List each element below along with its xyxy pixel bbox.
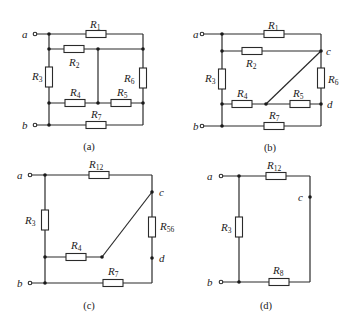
terminal-a — [219, 174, 223, 178]
terminal-b — [219, 280, 223, 284]
label-r2: R2 — [245, 57, 257, 71]
node-label-c: c — [159, 186, 164, 198]
terminal-label-a: a — [193, 28, 199, 40]
node-label-d: d — [327, 98, 333, 110]
label-r7: R7 — [90, 108, 102, 122]
label-r5: R5 — [292, 87, 304, 101]
resistor-r3 — [236, 217, 243, 237]
caption-b: (b) — [264, 142, 277, 154]
resistor-r5 — [111, 100, 131, 107]
label-r3: R3 — [204, 72, 216, 86]
node-label-c: c — [298, 191, 303, 203]
resistor-r56 — [149, 217, 156, 237]
resistor-r7 — [86, 122, 106, 129]
resistor-r6 — [140, 68, 147, 88]
terminal-a — [200, 32, 204, 36]
terminal-label-b: b — [207, 276, 213, 288]
label-r8: R8 — [272, 264, 284, 278]
resistor-r4 — [65, 100, 85, 107]
label-r4: R4 — [236, 87, 248, 101]
terminal-b — [200, 124, 204, 128]
caption-a: (a) — [83, 141, 95, 153]
terminal-a — [28, 173, 32, 177]
resistor-r12 — [266, 173, 286, 180]
label-r12: R12 — [266, 159, 281, 173]
resistor-r8 — [269, 279, 289, 286]
label-r1: R1 — [89, 18, 101, 32]
label-r4: R4 — [70, 239, 82, 253]
resistor-r7 — [264, 123, 284, 130]
node-label-d: d — [159, 252, 165, 264]
panel-d: a b c R12 R3 R8 (d) — [207, 159, 312, 312]
circuit-figure: a b R1 R2 R3 R4 R5 R6 R7 (a) a — [0, 0, 354, 326]
resistor-r3 — [46, 67, 53, 87]
terminal-label-b: b — [22, 119, 28, 131]
label-r5: R5 — [116, 86, 128, 100]
terminal-label-a: a — [17, 169, 23, 181]
terminal-a — [33, 32, 37, 36]
caption-d: (d) — [260, 300, 273, 312]
label-r3: R3 — [31, 70, 43, 84]
resistor-r5 — [290, 101, 310, 108]
label-r2: R2 — [68, 56, 80, 70]
label-r12: R12 — [88, 158, 103, 172]
panel-a: a b R1 R2 R3 R4 R5 R6 R7 (a) — [22, 18, 147, 153]
terminal-label-a: a — [207, 170, 213, 182]
label-r7: R7 — [268, 109, 280, 123]
label-r3: R3 — [220, 221, 232, 235]
resistor-r7 — [103, 280, 123, 287]
label-r6: R6 — [327, 73, 339, 87]
terminal-label-a: a — [22, 28, 28, 40]
resistor-r2 — [64, 46, 84, 53]
resistor-r4 — [66, 254, 86, 261]
resistor-r2 — [242, 48, 262, 55]
label-r7: R7 — [107, 265, 119, 279]
node-label-c: c — [326, 45, 331, 57]
resistor-r6 — [318, 68, 325, 88]
terminal-b — [33, 123, 37, 127]
resistor-r12 — [89, 172, 109, 179]
label-r3: R3 — [24, 214, 36, 228]
panel-b: a b c d R1 R2 R3 R4 R5 R6 R7 (b) — [193, 19, 339, 154]
terminal-label-b: b — [193, 120, 199, 132]
resistor-r3 — [42, 210, 49, 230]
terminal-label-b: b — [17, 277, 23, 289]
resistor-r4 — [232, 101, 252, 108]
panel-c: a b c d R12 R3 R4 R56 R7 (c) — [17, 158, 174, 312]
label-r56: R56 — [159, 220, 174, 234]
label-r1: R1 — [267, 19, 279, 33]
terminal-b — [28, 281, 32, 285]
label-r6: R6 — [123, 72, 135, 86]
resistor-r3 — [219, 69, 226, 89]
label-r4: R4 — [69, 86, 81, 100]
caption-c: (c) — [83, 300, 95, 312]
